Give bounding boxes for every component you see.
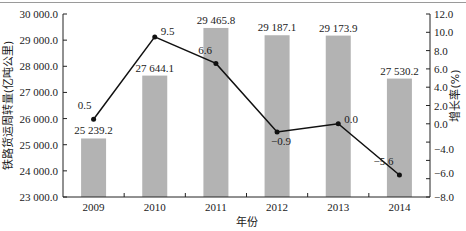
bar-value-label: 27 530.2 <box>380 65 419 77</box>
bar-value-label: 29 173.9 <box>319 22 358 34</box>
right-y-tick-label: −4.0 <box>434 143 454 155</box>
x-tick-label: 2013 <box>327 201 350 213</box>
x-tick-label: 2010 <box>144 201 167 213</box>
right-y-tick-label: 10.0 <box>434 26 454 38</box>
bar-value-label: 27 644.1 <box>136 62 175 74</box>
right-y-tick-label: 0.0 <box>434 118 448 130</box>
chart-canvas: 25 239.227 644.129 465.829 187.129 173.9… <box>0 0 466 231</box>
growth-rate-label: 6.6 <box>198 44 212 56</box>
x-tick-label: 2014 <box>388 201 411 213</box>
bar-value-label: 29 465.8 <box>197 14 236 26</box>
growth-rate-label: 0.0 <box>344 113 358 125</box>
left-y-tick-label: 26 000.0 <box>20 113 59 125</box>
right-y-tick-label: −6.0 <box>434 167 454 179</box>
left-y-tick-label: 23 000.0 <box>20 191 59 203</box>
growth-rate-label: 0.5 <box>78 99 92 111</box>
right-y-tick-label: 4.0 <box>434 81 448 93</box>
growth-rate-line <box>94 37 400 175</box>
growth-rate-point <box>213 61 218 66</box>
bar-2012 <box>265 35 290 197</box>
growth-rate-point <box>152 34 157 39</box>
x-axis-title: 年份 <box>236 215 258 229</box>
growth-rate-point <box>275 130 280 135</box>
right-y-tick-label: 12.0 <box>434 8 454 20</box>
bar-2010 <box>142 76 167 197</box>
bar-value-label: 29 187.1 <box>258 21 297 33</box>
left-y-tick-label: 30 000.0 <box>20 8 59 20</box>
left-y-tick-label: 24 000.0 <box>20 165 59 177</box>
x-tick-label: 2011 <box>205 201 227 213</box>
growth-rate-point <box>336 121 341 126</box>
right-y-axis-title: 增长率(%) <box>448 69 462 121</box>
bar-value-label: 25 239.2 <box>74 124 113 136</box>
left-y-tick-label: 25 000.0 <box>20 139 59 151</box>
growth-rate-label: 9.5 <box>161 25 175 37</box>
growth-rate-point <box>91 117 96 122</box>
left-y-axis-title: 铁路货运周转量(亿吨公里) <box>1 41 15 171</box>
left-y-tick-label: 27 000.0 <box>20 86 59 98</box>
right-y-tick-label: 2.0 <box>434 100 448 112</box>
right-y-tick-label: 6.0 <box>434 63 448 75</box>
right-y-tick-label: −8.0 <box>434 191 454 203</box>
right-y-tick-label: 8.0 <box>434 45 448 57</box>
growth-rate-label: −5.6 <box>373 155 393 167</box>
bar-2009 <box>81 138 106 197</box>
left-y-tick-label: 28 000.0 <box>20 60 59 72</box>
growth-rate-label: −0.9 <box>271 135 291 147</box>
growth-rate-point <box>397 173 402 178</box>
x-tick-label: 2009 <box>83 201 106 213</box>
x-tick-label: 2012 <box>266 201 288 213</box>
left-y-tick-label: 29 000.0 <box>20 34 59 46</box>
bar-2014 <box>387 79 412 197</box>
